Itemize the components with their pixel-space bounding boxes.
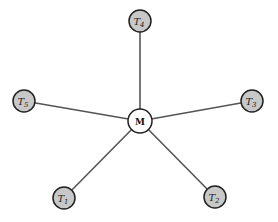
edge-M-T1 [64,121,140,198]
edge-M-T5 [24,101,140,121]
edge-M-T2 [140,121,215,197]
diagram-svg: T1T2T3T4T5M [0,0,278,222]
node-t3: T3 [241,90,263,112]
node-t4: T4 [129,10,151,32]
node-t5: T5 [13,90,35,112]
node-m: M [128,109,152,133]
edge-M-T3 [140,101,252,121]
node-t1: T1 [53,187,75,209]
center-label: M [135,117,145,127]
node-t2: T2 [204,186,226,208]
star-diagram: T1T2T3T4T5M [0,0,278,222]
